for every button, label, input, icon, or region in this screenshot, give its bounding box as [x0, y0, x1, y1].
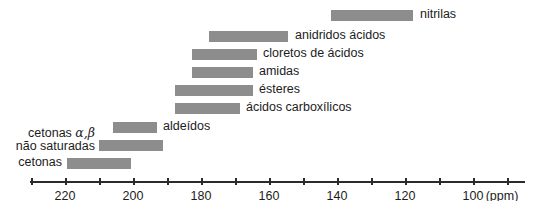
axis-tick-140	[337, 178, 339, 185]
range-label-amidas: amidas	[259, 64, 299, 79]
axis-tick-label-160: 160	[259, 189, 280, 201]
axis-tick-150	[303, 178, 305, 185]
axis-tick-200	[133, 178, 135, 185]
axis-tick-label-220: 220	[55, 189, 76, 201]
range-row-acidos-carboxilicos: ácidos carboxílicos	[0, 103, 533, 117]
range-bar-nitrilas	[331, 10, 413, 21]
range-label-line-2: não saturadas	[0, 140, 95, 153]
range-row-cloretos-de-acidos: cloretos de ácidos	[0, 49, 533, 63]
axis-tick-210	[99, 178, 101, 185]
range-label-cetonas: cetonas	[10, 155, 62, 170]
axis-unit-label: (ppm)	[486, 189, 519, 201]
axis-tick-180	[201, 178, 203, 185]
axis-tick-110	[439, 178, 441, 185]
axis-tick-label-140: 140	[327, 189, 348, 201]
range-label-cetonas-text: cetonas	[28, 126, 75, 140]
axis-tick-120	[405, 178, 407, 185]
axis-tick-label-120: 120	[395, 189, 416, 201]
range-bar-cetonas-alfa-beta-nao-saturadas	[99, 140, 163, 151]
range-label-line-1: cetonas α,β	[0, 126, 95, 140]
range-label-nitrilas: nitrilas	[420, 7, 456, 22]
range-bar-aldeidos	[113, 122, 157, 133]
axis-tick-130	[371, 178, 373, 185]
range-bar-amidas	[192, 67, 253, 78]
range-row-anidridos-acidos: anidridos ácidos	[0, 31, 533, 45]
range-row-cetonas: cetonas	[0, 158, 533, 172]
range-label-anidridos-acidos: anidridos ácidos	[295, 28, 385, 43]
axis-tick-90	[507, 178, 509, 185]
range-row-cetonas-alfa-beta-nao-saturadas: cetonas α,β não saturadas	[0, 140, 533, 154]
range-row-amidas: amidas	[0, 67, 533, 81]
axis-tick-230	[31, 178, 33, 185]
range-label-cloretos-de-acidos: cloretos de ácidos	[263, 46, 364, 61]
axis-tick-170	[235, 178, 237, 185]
axis-tick-label-180: 180	[191, 189, 212, 201]
axis-tick-label-100: 100	[463, 189, 484, 201]
range-label-aldeidos: aldeídos	[163, 119, 210, 134]
range-bar-anidridos-acidos	[209, 31, 288, 42]
range-label-esteres: ésteres	[259, 82, 300, 97]
range-row-nitrilas: nitrilas	[0, 10, 533, 24]
range-label-cetonas-alfa-beta-nao-saturadas: cetonas α,β não saturadas	[0, 126, 95, 153]
range-label-acidos-carboxilicos: ácidos carboxílicos	[246, 100, 352, 115]
axis-tick-160	[269, 178, 271, 185]
axis-tick-190	[167, 178, 169, 185]
greek-alpha-beta-symbol: α,β	[75, 125, 95, 140]
nmr-chemical-shift-chart: nitrilas anidridos ácidos cloretos de ác…	[0, 0, 533, 201]
axis-tick-label-200: 200	[123, 189, 144, 201]
range-bar-esteres	[175, 85, 253, 96]
axis-tick-220	[65, 178, 67, 185]
x-axis: 220 200 180 160 140 120 100 (ppm)	[0, 175, 533, 201]
range-bar-cetonas	[67, 158, 131, 169]
range-bar-acidos-carboxilicos	[175, 103, 240, 114]
axis-tick-100	[473, 178, 475, 185]
range-bar-cloretos-de-acidos	[192, 49, 257, 60]
range-row-esteres: ésteres	[0, 85, 533, 99]
plot-area: nitrilas anidridos ácidos cloretos de ác…	[0, 0, 533, 175]
axis-line	[30, 181, 525, 183]
